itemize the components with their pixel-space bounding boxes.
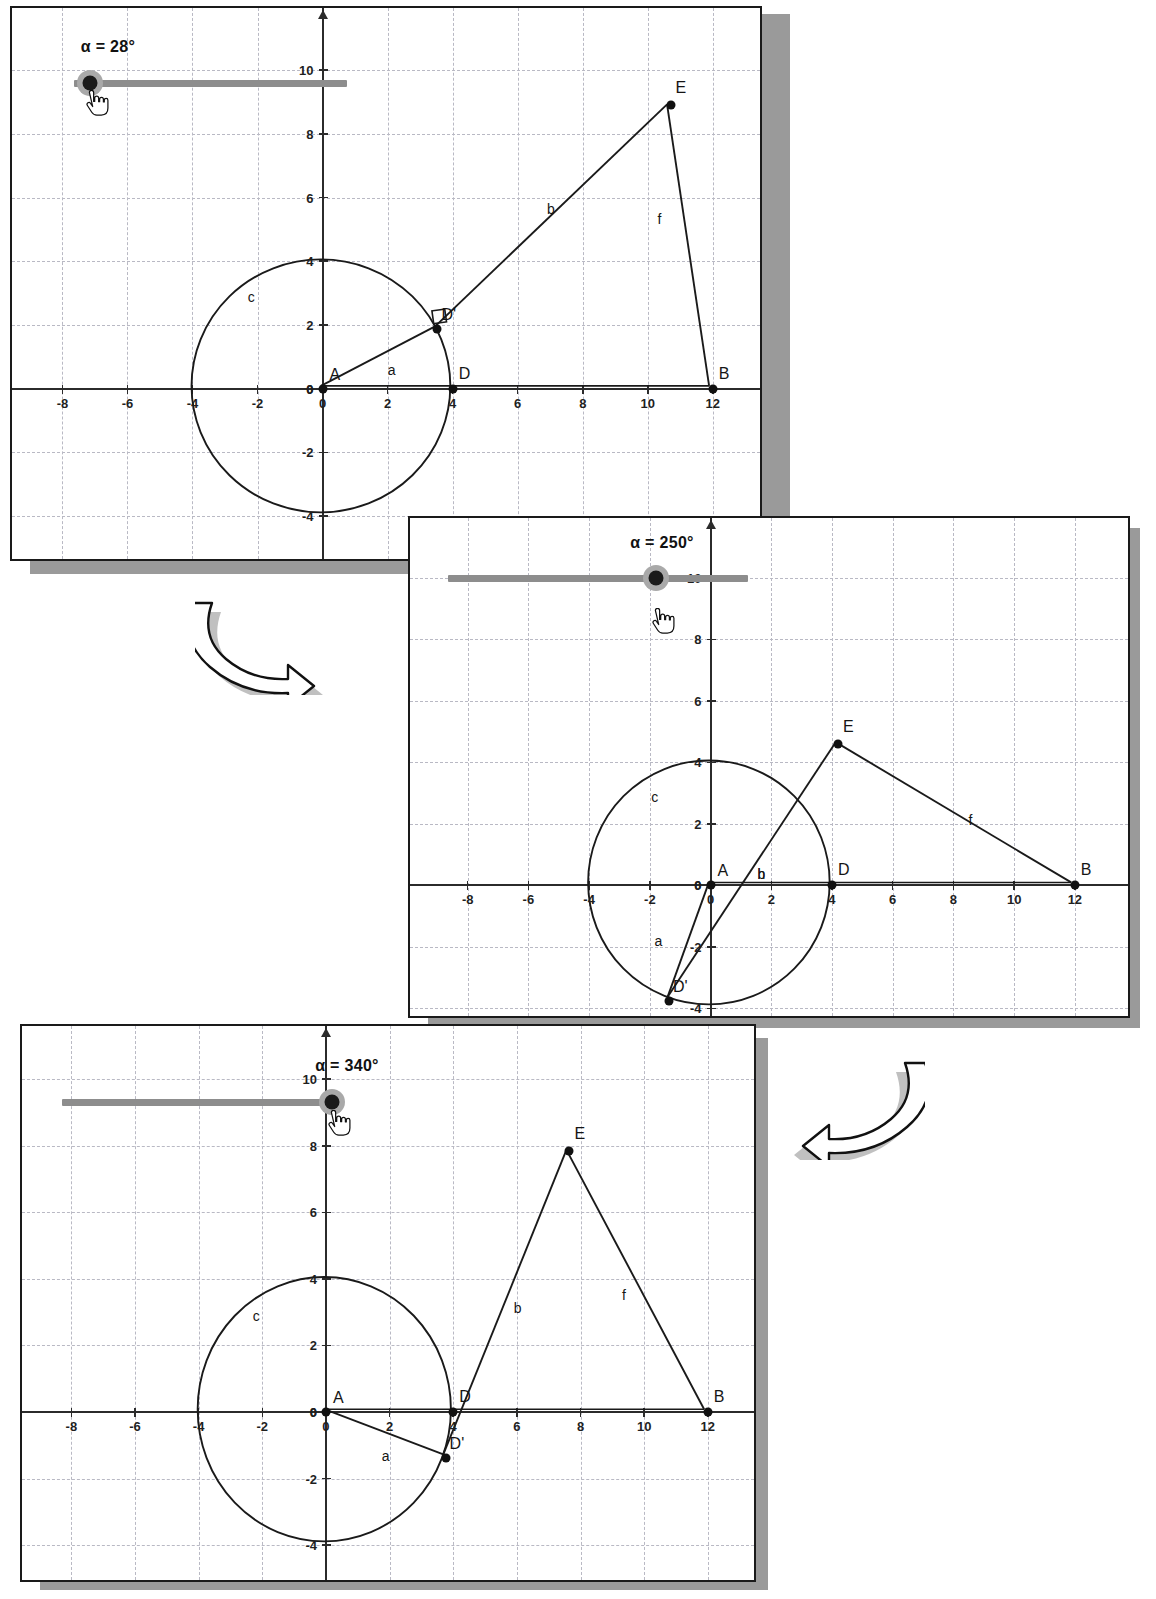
y-axis-tick-label: 8: [310, 1139, 317, 1152]
x-axis-tick-label: -8: [66, 1420, 78, 1433]
point-label-B: B: [714, 1389, 725, 1405]
x-axis-tick-label: 8: [577, 1420, 584, 1433]
segment-label-f: f: [622, 1288, 626, 1302]
x-axis-tick-label: 12: [706, 397, 720, 410]
y-axis-tick-label: -4: [302, 510, 314, 523]
segment-label-f: f: [658, 212, 662, 226]
point-B[interactable]: [703, 1407, 712, 1416]
segment-label-a: a: [388, 363, 396, 377]
segment-label-b: b: [514, 1301, 522, 1315]
y-axis-tick-label: 6: [694, 694, 701, 707]
point-Dprime[interactable]: [433, 324, 442, 333]
x-axis-tick-label: -2: [644, 893, 656, 906]
circle-label-c: c: [248, 290, 255, 304]
x-axis-tick-label: -4: [583, 893, 595, 906]
slider-knob[interactable]: [83, 76, 98, 91]
segment-label-b: b: [547, 202, 555, 216]
y-axis-tick-label: -4: [690, 1002, 702, 1015]
circle-label-c: c: [253, 1309, 260, 1323]
y-axis-tick-label: 8: [694, 633, 701, 646]
point-B[interactable]: [1070, 881, 1079, 890]
hand-cursor-icon: [82, 90, 112, 126]
point-D[interactable]: [449, 1407, 458, 1416]
panel-1-geometry: [12, 8, 760, 559]
x-axis-tick-label: -4: [187, 397, 199, 410]
y-axis-tick-label: 2: [310, 1339, 317, 1352]
point-E[interactable]: [666, 101, 675, 110]
x-axis-tick-label: 10: [641, 397, 655, 410]
point-D[interactable]: [827, 881, 836, 890]
x-axis-tick-label: 8: [950, 893, 957, 906]
slider-track[interactable]: [62, 1099, 332, 1106]
slider-value-label: α = 28°: [81, 38, 135, 56]
arrow-panel1-to-panel2: [195, 585, 375, 695]
x-axis-tick-label: 4: [450, 1420, 457, 1433]
x-axis-tick-label: 4: [828, 893, 835, 906]
point-label-D: D: [459, 366, 471, 382]
point-Dprime[interactable]: [441, 1453, 450, 1462]
panel-3[interactable]: -8-6-4-20246810121086420-2-4cabfADD'BE0 …: [20, 1024, 756, 1582]
circle-label-c: c: [651, 790, 658, 804]
point-label-B: B: [1081, 862, 1092, 878]
x-axis-tick-label: -8: [57, 397, 69, 410]
x-axis-tick-label: 2: [768, 893, 775, 906]
y-axis-tick-label: 8: [306, 127, 313, 140]
segment-b: [668, 742, 836, 997]
x-axis-tick-label: 0: [319, 397, 326, 410]
point-label-Dprime: D': [673, 979, 688, 995]
point-B[interactable]: [708, 384, 717, 393]
point-Dprime[interactable]: [664, 996, 673, 1005]
segment-label-a: a: [382, 1449, 390, 1463]
point-label-A: A: [330, 367, 341, 383]
x-axis-tick-label: 8: [579, 397, 586, 410]
x-axis-tick-label: -2: [257, 1420, 269, 1433]
point-label-E: E: [574, 1126, 585, 1142]
x-axis-tick-label: 6: [889, 893, 896, 906]
x-axis-tick-label: -4: [193, 1420, 205, 1433]
point-label-Dprime: D': [450, 1436, 465, 1452]
point-E[interactable]: [834, 739, 843, 748]
slider-track[interactable]: [448, 575, 748, 582]
point-label-A: A: [718, 863, 729, 879]
slider-knob[interactable]: [649, 571, 664, 586]
x-axis-tick-label: -6: [129, 1420, 141, 1433]
point-label-D: D: [838, 862, 850, 878]
origin-label: 0: [694, 879, 701, 892]
panel-2[interactable]: -8-6-4-20246810121086420-2-4cabfhADD'BE0…: [408, 516, 1130, 1018]
x-axis-tick-label: -6: [523, 893, 535, 906]
x-axis-tick-label: 6: [514, 397, 521, 410]
y-axis-tick-label: 2: [306, 318, 313, 331]
slider-knob[interactable]: [325, 1095, 340, 1110]
point-label-E: E: [676, 80, 687, 96]
point-E[interactable]: [565, 1146, 574, 1155]
point-A[interactable]: [321, 1407, 330, 1416]
x-axis-tick-label: 12: [701, 1420, 715, 1433]
x-axis-tick-label: 10: [1007, 893, 1021, 906]
panel-1[interactable]: -8-6-4-20246810121086420-2-4cabfADD'BE0 …: [10, 6, 762, 561]
y-axis-tick-label: -2: [690, 940, 702, 953]
x-axis-tick-label: -8: [462, 893, 474, 906]
point-A[interactable]: [706, 881, 715, 890]
origin-label: 0: [310, 1405, 317, 1418]
segment-label-a: a: [654, 934, 662, 948]
y-axis-tick-label: 10: [299, 64, 313, 77]
x-axis-tick-label: 12: [1068, 893, 1082, 906]
arrow-panel2-to-panel3: [745, 1045, 925, 1160]
x-axis-tick-label: 10: [637, 1420, 651, 1433]
point-label-Dprime: D': [441, 307, 456, 323]
segment-label-h: h: [758, 867, 766, 881]
point-A[interactable]: [318, 384, 327, 393]
slider-value-label: α = 340°: [315, 1057, 379, 1075]
segment-f: [667, 104, 709, 385]
slider-track[interactable]: [74, 80, 347, 87]
x-axis-tick-label: 2: [386, 1420, 393, 1433]
y-axis-tick-label: -2: [305, 1472, 317, 1485]
hand-cursor-icon: [324, 1110, 354, 1146]
panel-2-geometry: [410, 518, 1128, 1016]
y-axis-tick-label: 4: [306, 255, 313, 268]
point-label-A: A: [333, 1390, 344, 1406]
y-axis-tick-label: 6: [310, 1206, 317, 1219]
segment-label-f: f: [969, 813, 973, 827]
point-D[interactable]: [448, 384, 457, 393]
x-axis-tick-label: 0: [322, 1420, 329, 1433]
